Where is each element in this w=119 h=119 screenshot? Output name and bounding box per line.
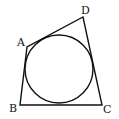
- vertex-label-d: D: [81, 4, 90, 17]
- inscribed-circle: [25, 35, 93, 103]
- vertex-label-a: A: [16, 36, 26, 49]
- quadrilateral-diagram: A B C D: [0, 0, 119, 119]
- quadrilateral-abcd: [20, 17, 102, 105]
- vertex-label-b: B: [9, 102, 17, 115]
- vertex-label-c: C: [103, 103, 111, 116]
